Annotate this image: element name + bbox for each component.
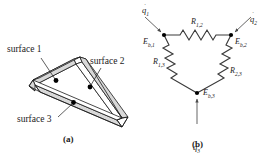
figure-container: .ol{fill:none;stroke:#1a1a1a;stroke-widt… [0,0,279,157]
resistor-12-label: R1,2 [191,18,203,26]
resistor-13-label: R1,3 [153,58,165,66]
resistor-12-element [164,30,231,40]
resistor-12-subscript: 1,2 [196,22,203,28]
source-q3-label: ˙q3 [193,143,279,152]
node-1-dot [162,33,166,37]
node-2-label: Eb,2 [235,38,247,46]
node-3-label: Eb,3 [203,89,215,97]
surface-2-marker [88,85,93,90]
resistor-13-element [163,35,197,93]
node-2-subscript: b,2 [240,42,247,48]
surface-3-label: surface 3 [17,115,52,125]
source-q1-dot: ˙ [144,3,146,5]
source-q2-subscript: 2 [254,19,257,25]
resistor-23-label: R2,3 [230,67,242,75]
surface-1-marker [54,78,59,83]
surface-1-label: surface 1 [7,45,42,55]
node-3-subscript: b,3 [208,93,215,99]
panel-b-network: .wire{fill:none;stroke:#3a3a3a;stroke-wi… [139,0,279,157]
node-1-label: Eb,1 [143,38,155,46]
source-q1-arrow [145,17,161,32]
source-q2-label: ˙q2 [250,15,279,24]
panel-a-caption: (a) [63,135,74,144]
resistor-13-subscript: 1,3 [158,62,165,68]
network-drawing: .wire{fill:none;stroke:#3a3a3a;stroke-wi… [139,0,279,157]
panel-a-enclosure: .ol{fill:none;stroke:#1a1a1a;stroke-widt… [0,0,140,157]
node-3-dot [195,91,199,95]
surface-3-leader [58,104,72,117]
panel-b-caption: (b) [192,140,203,149]
source-q2-dot: ˙ [252,11,254,13]
node-1-subscript: b,1 [148,42,155,48]
surface-3-marker [71,100,76,105]
node-2-dot [229,33,233,37]
surface-2-label: surface 2 [90,57,125,67]
source-q1-label: ˙q1 [142,6,279,15]
resistor-23-element [197,35,232,93]
source-q1-subscript: 1 [146,11,149,17]
resistor-23-subscript: 2,3 [235,71,242,77]
source-q2-arrow [235,17,251,32]
